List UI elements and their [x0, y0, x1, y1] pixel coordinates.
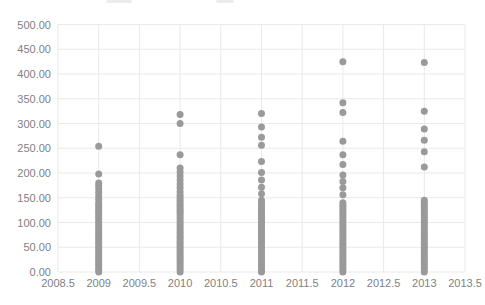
x-axis-tick-label: 2011 — [250, 277, 274, 289]
data-point — [339, 171, 346, 178]
x-axis-tick-label: 2008.5 — [41, 277, 75, 289]
data-point — [339, 184, 346, 191]
data-point — [95, 179, 102, 186]
y-axis-tick-label: 100.00 — [17, 217, 51, 229]
data-point — [258, 134, 265, 141]
data-point — [339, 161, 346, 168]
data-point — [339, 138, 346, 145]
data-point — [177, 111, 184, 118]
data-point — [421, 164, 428, 171]
data-point — [258, 123, 265, 130]
data-point — [421, 125, 428, 132]
data-point — [339, 109, 346, 116]
data-point — [339, 151, 346, 158]
cropped-title-fragment — [216, 0, 234, 3]
data-point — [258, 197, 265, 204]
y-axis-tick-label: 400.00 — [17, 68, 51, 80]
data-point — [339, 58, 346, 65]
y-axis-tick-label: 500.00 — [17, 19, 51, 31]
x-axis-tick-label: 2013.5 — [448, 277, 482, 289]
data-point — [258, 169, 265, 176]
x-axis-tick-label: 2009 — [86, 277, 110, 289]
scatter-plot: 0.0050.00100.00150.00200.00250.00300.003… — [0, 0, 485, 305]
x-axis-tick-label: 2012.5 — [367, 277, 401, 289]
data-point — [339, 99, 346, 106]
x-axis-tick-label: 2009.5 — [123, 277, 157, 289]
y-axis-tick-label: 350.00 — [17, 93, 51, 105]
data-point — [258, 176, 265, 183]
data-point — [339, 199, 346, 206]
x-axis-tick-label: 2012 — [331, 277, 355, 289]
data-point — [421, 148, 428, 155]
data-point — [421, 108, 428, 115]
data-point — [177, 151, 184, 158]
chart: 0.0050.00100.00150.00200.00250.00300.003… — [0, 0, 485, 305]
data-point — [258, 110, 265, 117]
data-point — [258, 184, 265, 191]
y-axis-tick-label: 450.00 — [17, 43, 51, 55]
data-point — [258, 190, 265, 197]
data-point — [95, 143, 102, 150]
y-axis-tick-label: 50.00 — [23, 241, 51, 253]
cropped-title-fragment — [106, 0, 132, 3]
y-axis-tick-label: 300.00 — [17, 118, 51, 130]
y-axis-tick-label: 200.00 — [17, 167, 51, 179]
data-point — [339, 178, 346, 185]
x-axis-tick-label: 2011.5 — [286, 277, 319, 289]
x-axis-tick-label: 2010.5 — [204, 277, 238, 289]
data-point — [258, 142, 265, 149]
data-point — [339, 191, 346, 198]
y-axis-tick-label: 150.00 — [17, 192, 51, 204]
x-axis-tick-label: 2013 — [412, 277, 436, 289]
x-axis-tick-label: 2010 — [168, 277, 192, 289]
y-axis-tick-label: 250.00 — [17, 142, 51, 154]
data-point — [177, 165, 184, 172]
data-point — [258, 158, 265, 165]
data-point — [421, 59, 428, 66]
data-point — [421, 197, 428, 204]
data-point — [421, 137, 428, 144]
data-point — [177, 120, 184, 127]
data-point — [95, 170, 102, 177]
